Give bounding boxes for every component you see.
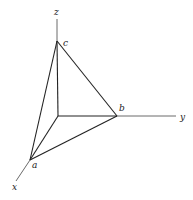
edge-b-c — [57, 41, 117, 116]
y-axis-label: y — [179, 112, 186, 122]
edge-c-a — [30, 41, 57, 160]
x-axis-label: x — [12, 182, 17, 192]
point-b-label: b — [119, 103, 125, 113]
z-axis-label: z — [53, 7, 59, 17]
x-axis — [16, 160, 30, 181]
edge-origin-c — [57, 41, 58, 116]
tetrahedron-diagram: z y x a b c — [0, 0, 193, 200]
point-a-label: a — [32, 160, 37, 170]
point-c-label: c — [63, 38, 68, 48]
edge-a-b — [30, 116, 117, 160]
